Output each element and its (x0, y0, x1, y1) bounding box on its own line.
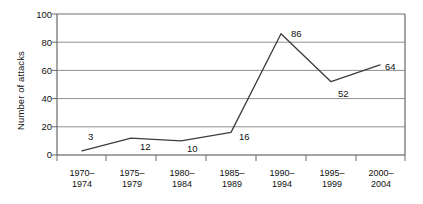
y-axis-ticks (52, 14, 57, 155)
x-tick-label-line2: 1974 (57, 179, 107, 190)
data-point-label: 10 (187, 144, 198, 154)
x-tick-label-line2: 1994 (257, 179, 307, 190)
x-tick-label-line2: 1989 (207, 179, 257, 190)
x-tick-label-line1: 1985– (207, 168, 257, 179)
x-tick-label: 1975– 1979 (107, 168, 157, 189)
data-point-label: 12 (140, 142, 151, 152)
data-point-label: 64 (385, 62, 396, 72)
x-tick-label-line1: 1990– (257, 168, 307, 179)
x-tick-label-line1: 1995– (307, 168, 357, 179)
x-tick-label-line2: 2004 (356, 179, 406, 190)
data-point-label: 3 (88, 132, 93, 142)
x-tick-label-line1: 1970– (57, 168, 107, 179)
x-tick-label: 1970– 1974 (57, 168, 107, 189)
x-tick-label: 1995– 1999 (307, 168, 357, 189)
x-tick-label-line2: 1999 (307, 179, 357, 190)
x-tick-label: 1985– 1989 (207, 168, 257, 189)
x-tick-label-line1: 1975– (107, 168, 157, 179)
x-axis-ticks (57, 155, 405, 161)
x-tick-label-line2: 1984 (157, 179, 207, 190)
data-point-label: 16 (239, 132, 250, 142)
x-tick-label-line1: 2000– (356, 168, 406, 179)
x-tick-label: 2000– 2004 (356, 168, 406, 189)
data-point-label: 86 (291, 29, 302, 39)
axis-lines (57, 14, 405, 155)
data-series-line (82, 34, 380, 151)
data-point-label: 52 (338, 89, 349, 99)
x-tick-label-line1: 1980– (157, 168, 207, 179)
gridlines (57, 14, 405, 127)
x-tick-label-line2: 1979 (107, 179, 157, 190)
line-chart: Number of attacks 100 80 60 40 20 0 (0, 0, 423, 204)
x-tick-label: 1990– 1994 (257, 168, 307, 189)
x-tick-label: 1980– 1984 (157, 168, 207, 189)
